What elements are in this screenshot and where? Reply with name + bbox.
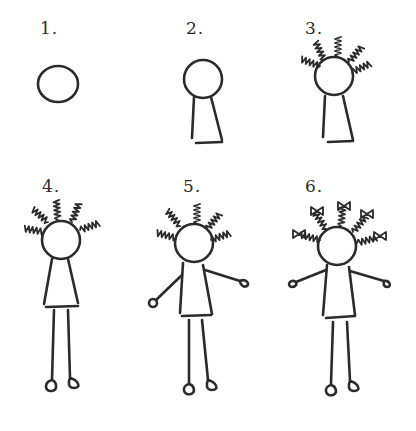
leg-left (331, 322, 333, 384)
dress-left (180, 263, 183, 313)
dress-hem (196, 142, 222, 143)
step-3-figure (300, 37, 371, 142)
dress-left (192, 97, 194, 138)
hand-left (289, 281, 296, 287)
head-circle (184, 60, 222, 98)
step-6-figure (289, 202, 390, 395)
dress-left (323, 265, 327, 315)
dress-right (211, 97, 222, 140)
step-2-figure (184, 60, 222, 143)
leg-right (347, 322, 350, 381)
hand-left (149, 299, 157, 307)
dress-hem (46, 306, 78, 307)
drawing-canvas (0, 0, 416, 431)
braids (300, 37, 371, 75)
dress-hem (328, 141, 353, 142)
braids (24, 200, 100, 235)
dress-right (68, 259, 78, 303)
foot-left (184, 384, 194, 394)
hand-right (384, 281, 390, 287)
leg-right (68, 310, 70, 378)
leg-right (202, 320, 208, 380)
arm-right (350, 271, 384, 281)
head-circle (318, 227, 356, 265)
head-circle (315, 57, 353, 95)
foot-left (46, 380, 56, 391)
foot-right (69, 378, 79, 388)
arm-left (156, 275, 182, 300)
dress-hem (326, 316, 355, 318)
head-circle (42, 221, 80, 259)
step-1-figure (38, 66, 78, 102)
head-circle (38, 66, 78, 102)
leg-left (52, 310, 54, 380)
step-4-figure (24, 200, 100, 391)
arm-right (205, 270, 240, 281)
foot-right (207, 380, 217, 390)
dress-right (349, 267, 355, 315)
step-5-figure (149, 204, 248, 394)
foot-left (326, 385, 336, 395)
dress-hem (182, 315, 211, 316)
dress-left (323, 96, 325, 137)
hand-right (240, 280, 248, 286)
drawing-tutorial: 1. 2. 3. 4. 5. 6. (0, 0, 416, 431)
dress-left (44, 259, 52, 304)
foot-right (349, 381, 359, 391)
dress-right (343, 96, 353, 140)
arm-left (296, 270, 326, 282)
